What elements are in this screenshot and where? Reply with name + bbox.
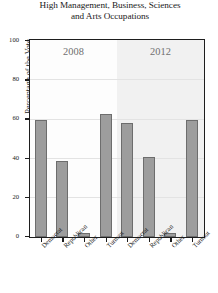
- bar: [186, 120, 198, 237]
- y-tick-label: 20: [12, 193, 19, 200]
- bar: [100, 114, 112, 237]
- plot-area: 2008 2012: [29, 39, 205, 238]
- y-tick-label: 100: [9, 36, 19, 43]
- chart-title: High Management, Business, Sciences and …: [6, 0, 214, 23]
- bar: [35, 120, 47, 237]
- bar-chart: High Management, Business, Sciences and …: [0, 0, 218, 293]
- y-tick-label: 80: [12, 75, 19, 82]
- bar: [121, 123, 133, 237]
- y-tick-label: 40: [12, 154, 19, 161]
- chart-title-line-2: and Arts Occupations: [6, 11, 214, 22]
- bars-layer: [30, 40, 204, 237]
- y-tick-label: 60: [12, 114, 19, 121]
- y-tick-label: 0: [16, 232, 19, 239]
- chart-title-line-1: High Management, Business, Sciences: [6, 0, 214, 11]
